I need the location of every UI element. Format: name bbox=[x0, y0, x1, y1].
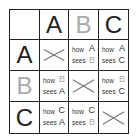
row-header-b: B bbox=[10, 71, 40, 102]
cross-icon bbox=[99, 102, 128, 133]
col-header-b: B bbox=[69, 10, 99, 40]
corner-cell bbox=[10, 10, 40, 40]
cell-c-sees-a: how sees C A bbox=[40, 102, 69, 134]
object-letter: C bbox=[119, 55, 126, 65]
cell-a-sees-c: how sees A C bbox=[99, 40, 129, 71]
how-label: how bbox=[72, 108, 84, 115]
subject-letter: B bbox=[59, 74, 65, 84]
object-letter: B bbox=[89, 55, 95, 65]
sees-label: sees bbox=[102, 88, 116, 95]
cell-a-sees-b: how sees A B bbox=[69, 40, 99, 71]
subject-letter: C bbox=[89, 105, 96, 115]
subject-letter: A bbox=[119, 43, 125, 53]
cross-icon bbox=[69, 71, 98, 101]
how-label: how bbox=[43, 77, 55, 84]
cell-c-sees-b: how sees C B bbox=[69, 102, 99, 134]
cross-icon bbox=[40, 40, 68, 70]
sees-label: sees bbox=[72, 119, 86, 126]
diagonal-cell-c bbox=[99, 102, 129, 134]
object-letter: A bbox=[59, 86, 65, 96]
subject-letter: B bbox=[119, 74, 125, 84]
col-header-c: C bbox=[99, 10, 129, 40]
how-label: how bbox=[43, 108, 55, 115]
diagonal-cell-b bbox=[69, 71, 99, 102]
perspective-matrix: A B C A how sees A B how sees A C B how … bbox=[9, 9, 129, 134]
sees-label: sees bbox=[43, 88, 57, 95]
object-letter: B bbox=[89, 117, 95, 127]
row-header-a: A bbox=[10, 40, 40, 71]
sees-label: sees bbox=[72, 57, 86, 64]
sees-label: sees bbox=[102, 57, 116, 64]
subject-letter: A bbox=[89, 43, 95, 53]
object-letter: C bbox=[119, 86, 126, 96]
diagonal-cell-a bbox=[40, 40, 69, 71]
cell-b-sees-c: how sees B C bbox=[99, 71, 129, 102]
col-header-a: A bbox=[40, 10, 69, 40]
row-header-c: C bbox=[10, 102, 40, 134]
cell-b-sees-a: how sees B A bbox=[40, 71, 69, 102]
object-letter: A bbox=[59, 117, 65, 127]
how-label: how bbox=[102, 77, 114, 84]
subject-letter: C bbox=[59, 105, 66, 115]
sees-label: sees bbox=[43, 119, 57, 126]
how-label: how bbox=[102, 46, 114, 53]
how-label: how bbox=[72, 46, 84, 53]
